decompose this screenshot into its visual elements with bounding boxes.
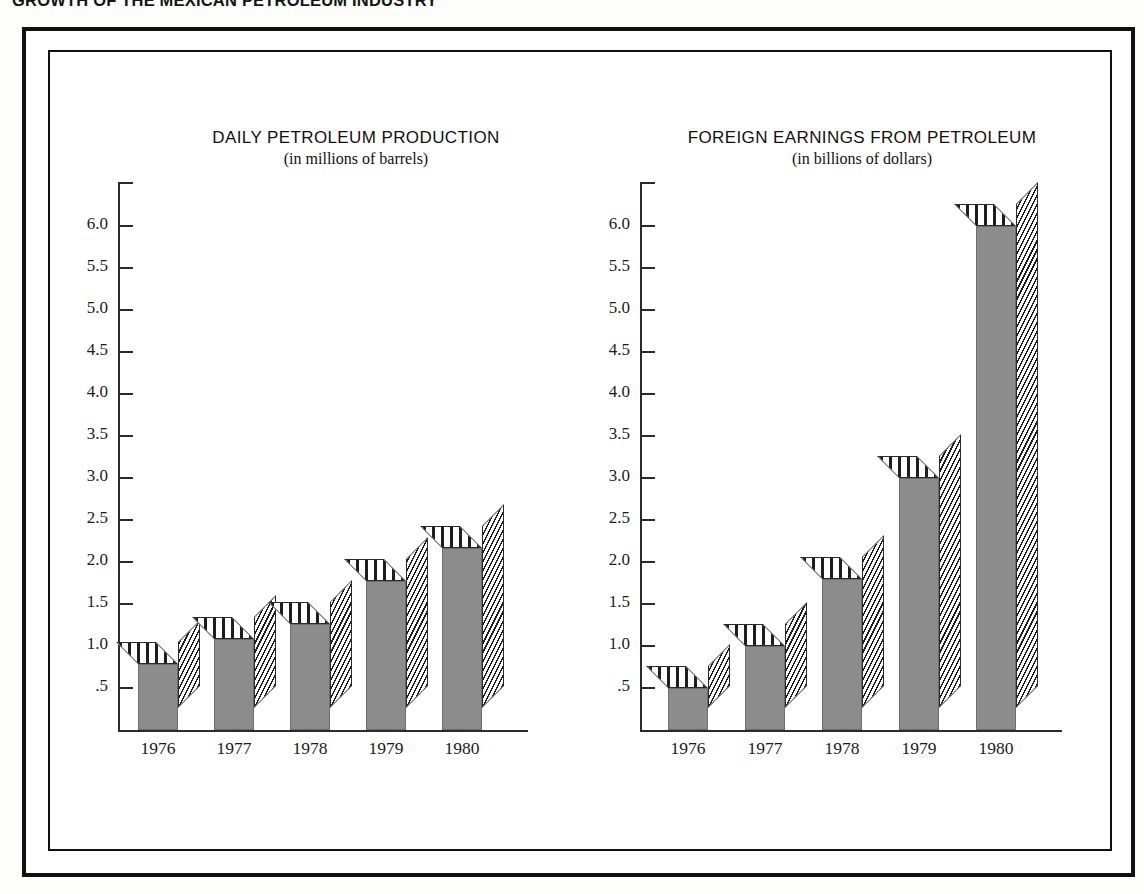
page-title: GROWTH OF THE MEXICAN PETROLEUM INDUSTRY	[12, 0, 437, 10]
inner-border-frame	[48, 50, 1112, 851]
